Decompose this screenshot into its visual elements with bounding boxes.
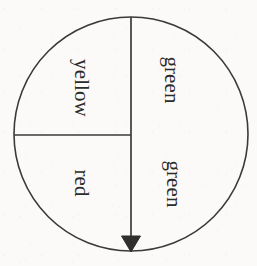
sector-label-yellow-upper-left: yellow — [71, 59, 92, 117]
sector-label-green-lower-right: green — [163, 160, 184, 207]
spinner-figure: green green yellow red — [0, 0, 257, 266]
spinner-drawing — [0, 0, 257, 266]
sector-label-green-upper-right: green — [161, 56, 182, 103]
arrowhead-icon — [122, 236, 141, 252]
sector-label-red-lower-left: red — [71, 169, 92, 196]
